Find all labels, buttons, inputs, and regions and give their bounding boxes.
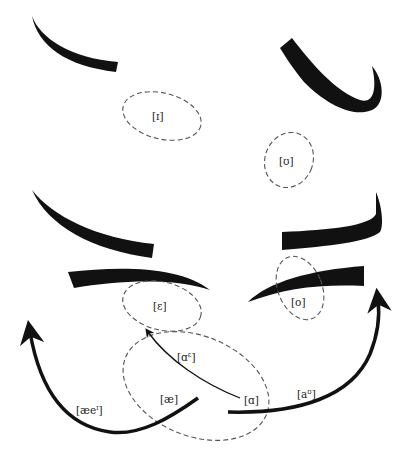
arrow-ae-to-i-glide bbox=[30, 332, 198, 433]
stroke-mid-right-lower bbox=[248, 266, 364, 302]
label-diphthong-a-u-base: [a bbox=[297, 388, 307, 400]
label-vowel-o: [o] bbox=[291, 296, 306, 308]
stroke-mid-left-upper bbox=[32, 190, 154, 258]
label-vowel-u: [ʊ] bbox=[279, 155, 294, 167]
label-diphthong-ae-i-close: ] bbox=[98, 404, 102, 416]
label-vowel-ae: [æ] bbox=[160, 393, 178, 405]
arrow-a-to-e-glide bbox=[148, 332, 240, 398]
region-ellipse-ae-a bbox=[107, 311, 285, 461]
stroke-top-left bbox=[32, 16, 118, 72]
stroke-top-right bbox=[280, 38, 382, 112]
label-diphthong-a-e-base: [ɑ bbox=[177, 351, 188, 363]
vowel-diagram: [ɪ] [ʊ] [ɛ] [o] [æ] [ɑ] [æeɪ] [ɑɛ] [aʊ] bbox=[0, 0, 406, 470]
label-diphthong-a-e: [ɑɛ] bbox=[177, 351, 196, 363]
stroke-mid-left-lower bbox=[68, 269, 210, 290]
label-vowel-e: [ɛ] bbox=[153, 300, 167, 312]
label-diphthong-a-e-close: ] bbox=[191, 351, 195, 363]
label-diphthong-a-u-close: ] bbox=[312, 388, 316, 400]
label-vowel-a: [ɑ] bbox=[244, 394, 259, 406]
stroke-mid-right-upper bbox=[282, 192, 382, 250]
label-diphthong-ae-i-base: [æe bbox=[76, 404, 96, 416]
label-diphthong-a-u: [aʊ] bbox=[297, 388, 316, 400]
label-vowel-i: [ɪ] bbox=[152, 110, 164, 122]
label-diphthong-ae-i: [æeɪ] bbox=[76, 404, 103, 416]
